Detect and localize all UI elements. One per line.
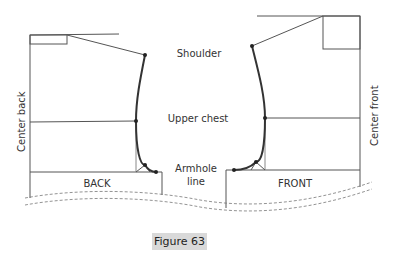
- center-front-label: Center front: [369, 85, 380, 146]
- armhole-line-label-1: Armhole: [175, 163, 217, 174]
- front-label: FRONT: [278, 178, 312, 189]
- shoulder-label: Shoulder: [177, 48, 222, 59]
- pattern-diagram: [0, 0, 394, 258]
- upper-chest-label: Upper chest: [168, 113, 229, 124]
- back-pattern: [30, 34, 162, 198]
- figure-caption: Figure 63: [152, 233, 207, 250]
- center-back-label: Center back: [16, 91, 27, 152]
- back-armhole-curve: [136, 55, 156, 172]
- front-armhole-curve: [234, 46, 265, 170]
- back-label: BACK: [83, 178, 110, 189]
- armhole-line-label-2: line: [187, 176, 205, 187]
